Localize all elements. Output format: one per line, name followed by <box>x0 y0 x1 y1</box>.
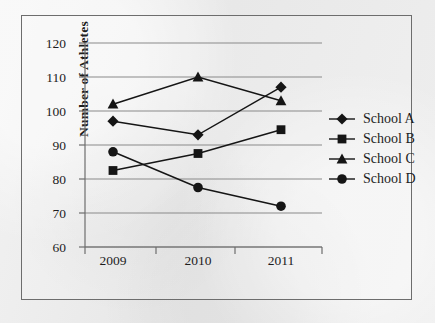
y-axis <box>79 43 85 247</box>
data-point-school-a-2011 <box>275 82 286 93</box>
legend-item-school-d: School D <box>327 169 416 189</box>
chart-screenshot: Number of Athletes 120 110 100 90 80 70 … <box>0 0 435 323</box>
data-point-school-d-2009 <box>108 147 118 157</box>
chart-outer-border: Number of Athletes 120 110 100 90 80 70 … <box>21 15 412 300</box>
legend-label-school-a: School A <box>357 111 415 127</box>
data-point-school-c-2010 <box>193 71 204 81</box>
data-point-school-d-2010 <box>193 183 203 193</box>
legend-item-school-a: School A <box>327 109 416 129</box>
legend-item-school-c: School C <box>327 149 416 169</box>
chart-legend: School A School B School C School D <box>327 109 416 189</box>
triangle-marker-icon <box>327 150 357 168</box>
legend-label-school-d: School D <box>357 171 416 187</box>
legend-label-school-c: School C <box>357 151 415 167</box>
x-axis <box>85 247 322 254</box>
data-point-school-b-2010 <box>194 149 203 158</box>
data-point-school-a-2010 <box>192 129 203 140</box>
data-point-school-b-2011 <box>277 125 286 134</box>
gridlines <box>85 43 322 247</box>
legend-label-school-b: School B <box>357 131 415 147</box>
data-point-school-a-2009 <box>107 116 118 127</box>
diamond-marker-icon <box>327 110 357 128</box>
square-marker-icon <box>327 130 357 148</box>
data-point-school-b-2009 <box>109 166 118 175</box>
circle-marker-icon <box>327 170 357 188</box>
legend-item-school-b: School B <box>327 129 416 149</box>
data-point-school-d-2011 <box>276 201 286 211</box>
